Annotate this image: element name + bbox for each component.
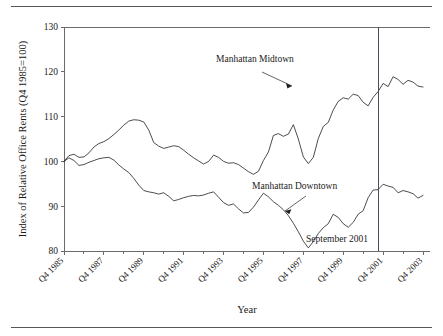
x-tick-label: Q4 1997 (276, 255, 306, 285)
y-axis-title: Index of Relative Office Rents (Q4 1985=… (17, 40, 29, 237)
x-tick-label: Q4 1989 (116, 255, 146, 285)
x-tick-label: Q4 1985 (36, 255, 66, 285)
x-tick-label: Q4 2001 (355, 255, 384, 284)
y-tick-label: 130 (44, 22, 59, 32)
x-tick-label: Q4 1987 (76, 255, 106, 285)
x-tick-label: Q4 1993 (196, 255, 226, 285)
y-tick-label: 110 (44, 112, 58, 122)
figure-container: 8090100110120130 Q4 1985Q4 1987Q4 1989Q4… (0, 0, 443, 336)
x-tick-label: Q4 2003 (395, 255, 425, 285)
series-line-manhattan-midtown (64, 77, 423, 175)
x-tick-label: Q4 1991 (156, 255, 185, 284)
y-tick-label: 80 (49, 246, 59, 256)
downtown-arrow-line (285, 196, 306, 211)
annotation-manhattan-downtown: Manhattan Downtown (252, 181, 337, 191)
x-tick-label: Q4 1999 (315, 255, 345, 285)
x-axis-title: Year (237, 304, 257, 315)
y-tick-label-group: 8090100110120130 (44, 22, 59, 256)
y-tick-label: 120 (44, 67, 59, 77)
annotation-september-2001: September 2001 (306, 234, 368, 244)
x-tick-marks (64, 251, 423, 255)
midtown-arrow-head-icon (286, 83, 292, 88)
y-tick-label: 90 (49, 202, 59, 212)
x-tick-label: Q4 1995 (236, 255, 266, 285)
series-line-manhattan-downtown (64, 157, 423, 247)
annotation-manhattan-midtown: Manhattan Midtown (216, 54, 294, 64)
x-tick-label-group: Q4 1985Q4 1987Q4 1989Q4 1991Q4 1993Q4 19… (36, 255, 425, 285)
y-tick-label: 100 (44, 157, 59, 167)
chart-plot-area: 8090100110120130 Q4 1985Q4 1987Q4 1989Q4… (0, 0, 443, 336)
